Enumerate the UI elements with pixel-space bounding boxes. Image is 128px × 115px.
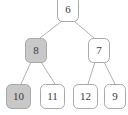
binary-tree-graphic: 6 8 7 10 11 12 9 bbox=[0, 0, 128, 115]
edge-left-to-left-right bbox=[41, 62, 55, 84]
edge-right-to-right-right bbox=[104, 62, 115, 84]
node-label-left-left: 10 bbox=[13, 90, 25, 102]
tree-node-left[interactable]: 8 bbox=[26, 39, 47, 63]
node-label-right-left: 12 bbox=[80, 90, 91, 102]
edge-root-to-left bbox=[40, 21, 62, 38]
node-label-right: 7 bbox=[96, 44, 102, 56]
tree-diagram-canvas: 6 8 7 10 11 12 9 bbox=[0, 0, 128, 115]
edge-right-to-right-left bbox=[88, 62, 95, 84]
node-label-root: 6 bbox=[65, 3, 71, 15]
tree-node-right[interactable]: 7 bbox=[89, 39, 110, 63]
edge-root-to-right bbox=[74, 21, 94, 38]
tree-node-left-left[interactable]: 10 bbox=[7, 85, 31, 109]
tree-node-right-right[interactable]: 9 bbox=[105, 85, 126, 109]
tree-node-root[interactable]: 6 bbox=[58, 0, 79, 22]
node-label-left: 8 bbox=[33, 44, 39, 56]
tree-node-left-right[interactable]: 11 bbox=[41, 85, 65, 109]
tree-node-right-left[interactable]: 12 bbox=[74, 85, 98, 109]
node-label-right-right: 9 bbox=[112, 90, 118, 102]
edge-left-to-left-left bbox=[21, 62, 31, 84]
node-label-left-right: 11 bbox=[47, 90, 58, 102]
